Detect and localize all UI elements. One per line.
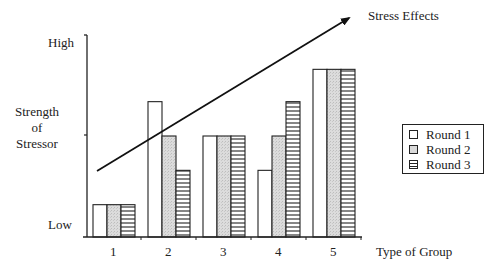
- legend-label: Round 3: [426, 157, 470, 173]
- bar-group-4-round-2: [272, 136, 286, 237]
- x-tick-label: 5: [330, 244, 337, 260]
- legend-swatch-gray-icon: [409, 145, 418, 154]
- bar-group-2-round-3: [176, 170, 190, 237]
- bar-group-3-round-3: [231, 136, 245, 237]
- bar-group-2-round-2: [162, 136, 176, 237]
- legend-swatch-lined-icon: [409, 160, 418, 169]
- x-tick-label: 2: [165, 244, 172, 260]
- bar-group-3-round-2: [217, 136, 231, 237]
- y-tick-low-label: Low: [48, 217, 72, 233]
- x-axis-title: Type of Group: [376, 244, 452, 260]
- legend-item-round-1: Round 1: [409, 127, 483, 142]
- y-axis-title: Strength of Stressor: [2, 104, 72, 152]
- bar-group-1-round-3: [121, 205, 135, 237]
- y-axis-title-line: Strength: [2, 104, 72, 120]
- bar-group-2-round-1: [148, 102, 162, 237]
- bar-group-1-round-2: [107, 205, 121, 237]
- bar-group-4-round-1: [258, 170, 272, 237]
- bar-group-5-round-2: [327, 69, 341, 237]
- arrow-label: Stress Effects: [368, 8, 439, 24]
- legend-label: Round 2: [426, 142, 470, 158]
- y-tick-high-label: High: [48, 35, 74, 51]
- bar-group-3-round-1: [203, 136, 217, 237]
- legend: Round 1 Round 2 Round 3: [402, 124, 484, 174]
- legend-swatch-white-icon: [409, 130, 418, 139]
- x-tick-label: 4: [275, 244, 282, 260]
- x-tick-label: 3: [220, 244, 227, 260]
- bar-group-4-round-3: [286, 102, 300, 237]
- bar-group-1-round-1: [93, 205, 107, 237]
- y-axis-title-line: of: [2, 120, 72, 136]
- legend-item-round-2: Round 2: [409, 142, 483, 157]
- legend-label: Round 1: [426, 127, 470, 143]
- bar-group-5-round-1: [313, 69, 327, 237]
- x-tick-label: 1: [110, 244, 117, 260]
- legend-item-round-3: Round 3: [409, 157, 483, 172]
- y-axis-title-line: Stressor: [2, 136, 72, 152]
- bar-group-5-round-3: [341, 69, 355, 237]
